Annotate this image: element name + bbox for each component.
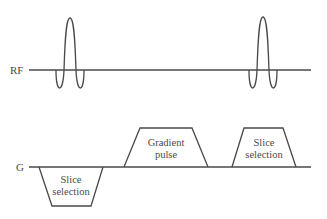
lobe-label-line2: selection [52,186,90,197]
lobe-label-line2: selection [245,149,283,160]
gradient-pulse-lobe: Gradient pulse [124,128,208,167]
lobe-label-line1: Slice [254,137,275,148]
gradient-axis-label: G [16,161,24,173]
lobe-label-line2: pulse [155,149,178,160]
lobe-label-line1: Gradient [148,137,185,148]
slice-selection-positive-lobe: Slice selection [232,128,296,167]
gradient-axis: G Slice selection Gradient pulse Slice s… [16,128,311,206]
rf-axis-label: RF [10,64,23,76]
slice-selection-negative-lobe: Slice selection [39,167,103,206]
rf-pulse-1 [56,18,84,88]
rf-pulse-2 [249,17,277,88]
pulse-sequence-diagram: RF G Slice selection Gradient pulse Slic… [0,0,327,219]
lobe-label-line1: Slice [61,174,82,185]
rf-axis: RF [10,17,311,88]
